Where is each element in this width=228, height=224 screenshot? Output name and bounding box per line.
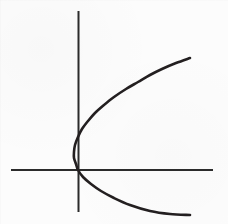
figure-canvas <box>0 0 228 224</box>
parabola-plot <box>0 0 228 224</box>
parabola-curve <box>74 58 190 215</box>
